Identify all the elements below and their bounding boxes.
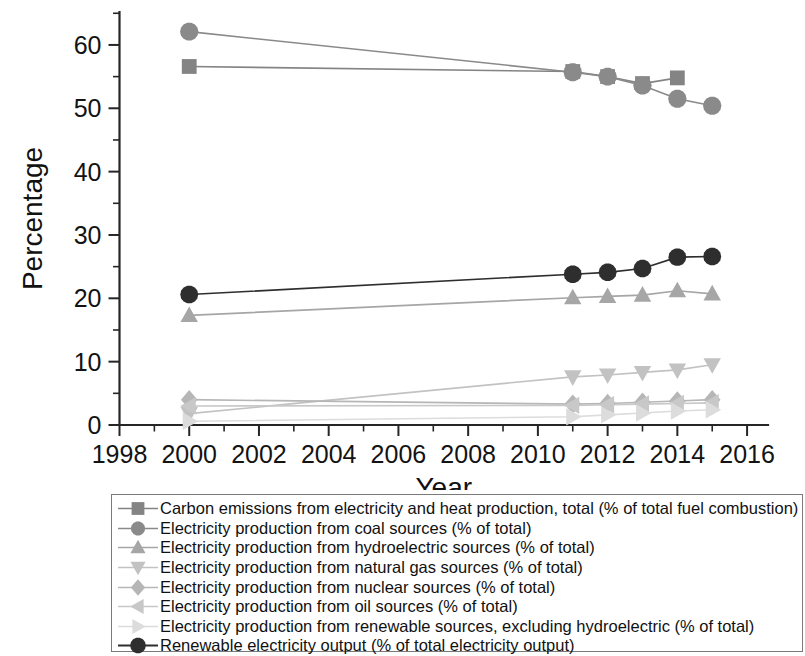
- data-point-marker: [668, 90, 686, 108]
- data-series: [180, 23, 721, 115]
- legend-item[interactable]: Electricity production from renewable so…: [116, 617, 802, 637]
- series-line: [189, 400, 712, 404]
- data-point-marker: [599, 264, 617, 281]
- series-line: [189, 291, 712, 316]
- data-point-marker: [564, 289, 581, 305]
- legend-marker-circle-icon: [116, 519, 160, 538]
- legend-marker-square-icon: [116, 499, 160, 518]
- data-point-marker: [599, 368, 616, 384]
- data-point-marker: [182, 59, 197, 74]
- data-series: [180, 282, 720, 322]
- series-line: [189, 257, 712, 295]
- legend-item-label: Electricity production from coal sources…: [160, 519, 531, 538]
- data-point-marker: [669, 282, 686, 298]
- chart-legend: Carbon emissions from electricity and he…: [111, 494, 803, 652]
- y-tick-label: 30: [74, 221, 102, 249]
- data-point-marker: [634, 366, 651, 382]
- y-tick-label: 50: [74, 94, 102, 122]
- legend-item[interactable]: Electricity production from natural gas …: [116, 558, 802, 578]
- x-tick-label: 2006: [371, 440, 427, 468]
- data-point-marker: [180, 23, 198, 41]
- data-point-marker: [703, 97, 721, 115]
- legend-item[interactable]: Electricity production from coal sources…: [116, 519, 802, 539]
- data-point-marker: [703, 248, 721, 265]
- legend-item-label: Carbon emissions from electricity and he…: [160, 499, 798, 518]
- data-point-marker: [670, 70, 685, 85]
- legend-marker-triangle-left-icon: [116, 597, 160, 616]
- data-point-marker: [564, 266, 582, 283]
- legend-marker-circle-filled-icon: [116, 636, 160, 655]
- y-tick-label: 60: [74, 31, 102, 59]
- series-line: [189, 32, 712, 106]
- x-axis-title: Year: [415, 472, 472, 490]
- data-point-marker: [180, 286, 198, 303]
- x-tick-label: 2008: [440, 440, 496, 468]
- data-point-marker: [634, 260, 652, 277]
- legend-item-label: Renewable electricity output (% of total…: [160, 636, 575, 655]
- legend-marker-triangle-right-icon: [116, 617, 160, 636]
- x-tick-label: 2002: [231, 440, 287, 468]
- legend-item-label: Electricity production from renewable so…: [160, 617, 754, 636]
- data-point-marker: [633, 77, 651, 95]
- y-tick-label: 0: [88, 411, 102, 439]
- legend-marker-triangle-up-icon: [116, 538, 160, 557]
- x-tick-label: 2012: [580, 440, 636, 468]
- x-tick-label: 2014: [650, 440, 706, 468]
- legend-item[interactable]: Electricity production from hydroelectri…: [116, 538, 802, 558]
- series-line: [189, 410, 712, 421]
- x-tick-label: 2004: [301, 440, 357, 468]
- y-tick-label: 20: [74, 284, 102, 312]
- legend-item-label: Electricity production from oil sources …: [160, 597, 518, 616]
- x-tick-label: 1998: [92, 440, 148, 468]
- data-point-marker: [564, 63, 582, 81]
- legend-item-label: Electricity production from natural gas …: [160, 558, 583, 577]
- data-point-marker: [180, 306, 197, 322]
- legend-item[interactable]: Electricity production from nuclear sour…: [116, 577, 802, 597]
- x-tick-label: 2000: [161, 440, 217, 468]
- y-tick-label: 10: [74, 348, 102, 376]
- legend-marker-triangle-down-icon: [116, 558, 160, 577]
- x-tick-label: 2010: [510, 440, 566, 468]
- data-point-marker: [599, 287, 616, 303]
- legend-marker-diamond-icon: [116, 578, 160, 597]
- x-tick-label: 2016: [719, 440, 775, 468]
- legend-item-label: Electricity production from hydroelectri…: [160, 538, 595, 557]
- data-point-marker: [668, 248, 686, 265]
- legend-item-label: Electricity production from nuclear sour…: [160, 578, 555, 597]
- data-point-marker: [669, 363, 686, 379]
- legend-item[interactable]: Carbon emissions from electricity and he…: [116, 499, 802, 519]
- y-tick-label: 40: [74, 158, 102, 186]
- legend-item[interactable]: Electricity production from oil sources …: [116, 597, 802, 617]
- plot-area: 0102030405060199820002002200420062008201…: [0, 0, 805, 490]
- legend-item[interactable]: Renewable electricity output (% of total…: [116, 636, 802, 656]
- y-axis-title: Percentage: [17, 147, 48, 290]
- data-point-marker: [598, 68, 616, 86]
